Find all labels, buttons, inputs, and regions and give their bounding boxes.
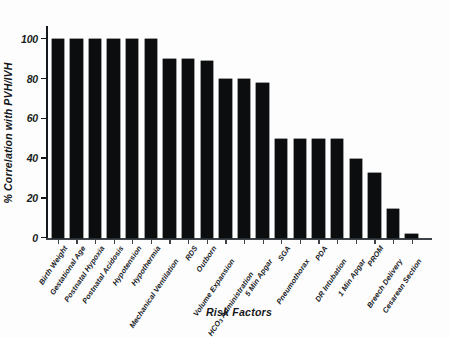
bar [294,139,306,239]
x-axis-tick [356,240,357,244]
x-axis-tick [58,240,59,244]
x-axis-tick [76,240,77,244]
x-axis-tick [132,240,133,244]
x-axis-tick [114,240,115,244]
bar [70,39,82,238]
x-axis-tick-label: RDS [183,244,199,262]
bar [201,61,213,238]
x-axis-tick-label: Pneumothorax [274,257,311,306]
y-axis-tick-label: 40 [27,152,38,164]
x-axis-tick [300,240,301,244]
bar [275,139,287,239]
bar [368,173,380,239]
chart-figure: % Correlation with PVH/IVH 020406080100 … [0,0,449,338]
bar [219,79,231,238]
x-axis-tick [188,240,189,244]
y-axis-tick-label: 60 [27,112,38,124]
bar [238,79,250,238]
bar [331,139,343,239]
bar [312,139,324,239]
bar [145,39,157,238]
y-axis-tick-label: 0 [32,232,38,244]
bar [163,59,175,238]
x-axis-tick [337,240,338,244]
x-axis-tick [281,240,282,244]
bar [182,59,194,238]
y-axis-tick: 100 [41,38,46,39]
y-axis-tick-label: 80 [27,73,38,85]
bar [405,234,417,238]
x-axis-tick [169,240,170,244]
x-axis-tick [244,240,245,244]
bar [256,83,268,238]
x-axis-tick-label: Mechanical Ventilation [128,257,181,330]
y-axis-tick: 60 [41,118,46,119]
bar [89,39,101,238]
x-axis-tick-label: SGA [276,244,293,263]
x-axis-tick-label: PROM [366,244,386,268]
y-axis-tick-label: 20 [27,192,38,204]
x-axis-tick [412,240,413,244]
plot-area: 020406080100 Birth WeightGestational Age… [46,26,432,240]
x-axis-tick [225,240,226,244]
x-axis-tick [318,240,319,244]
x-axis-tick [263,240,264,244]
bar [107,39,119,238]
x-axis-tick [151,240,152,244]
x-axis-title: Risk Factors [46,306,432,318]
x-axis-tick [393,240,394,244]
y-axis-spine [46,26,48,240]
x-axis-tick [95,240,96,244]
y-axis-tick: 20 [41,197,46,198]
y-axis-tick-label: 100 [21,33,38,45]
x-axis-tick [374,240,375,244]
y-axis-tick: 0 [41,237,46,238]
y-axis-title: % Correlation with PVH/IVH [2,26,16,240]
x-axis-tick-label: PDA [314,244,330,262]
y-axis-tick: 80 [41,78,46,79]
x-axis-tick [207,240,208,244]
bar [126,39,138,238]
y-axis-tick: 40 [41,157,46,158]
bar [387,209,399,239]
bar [52,39,64,238]
bar [350,159,362,239]
